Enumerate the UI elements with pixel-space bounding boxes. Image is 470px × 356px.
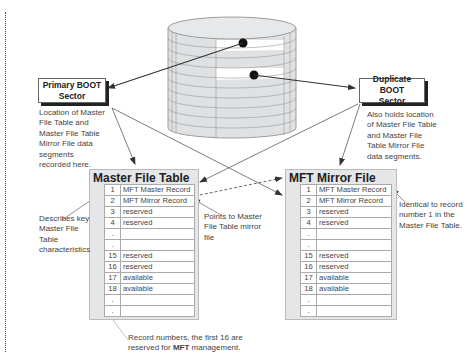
record-value: MFT Mirror Record xyxy=(317,196,392,207)
record-number: 17 xyxy=(105,273,121,284)
record-number: 4 xyxy=(301,218,317,229)
table-row: 17available xyxy=(301,273,392,284)
record-value: MFT Master Record xyxy=(121,185,195,196)
record-value: available xyxy=(121,284,195,295)
record-value: reserved xyxy=(317,262,392,273)
note-line: of Master File Table xyxy=(367,120,437,130)
duplicate-boot-label-line2: Sector xyxy=(360,96,424,107)
record-value: reserved xyxy=(121,207,195,218)
primary-boot-sector-box: Primary BOOT Sector xyxy=(38,78,106,103)
duplicate-boot-label-line1: Duplicate BOOT xyxy=(360,74,424,96)
primary-boot-label-line1: Primary BOOT xyxy=(43,80,102,91)
table-row: 3reserved xyxy=(301,207,392,218)
record-number: . xyxy=(105,306,121,317)
record-value: available xyxy=(317,284,392,295)
note-line: Table Mirror File xyxy=(367,141,437,151)
record-value: reserved xyxy=(121,262,195,273)
record-number: . xyxy=(105,229,121,240)
table-row: . xyxy=(301,306,392,317)
table-row: 18available xyxy=(105,284,195,295)
record-number: 1 xyxy=(105,185,121,196)
record-value xyxy=(317,240,392,251)
table-row: . xyxy=(105,240,195,251)
table-row: 2MFT Mirror Record xyxy=(301,196,392,207)
mft-mirror-file-title: MFT Mirror File xyxy=(289,171,376,185)
table-row: . xyxy=(301,229,392,240)
note-line: Identical to record xyxy=(399,200,463,210)
table-row: 2MFT Mirror Record xyxy=(105,196,195,207)
record-number: . xyxy=(105,295,121,306)
note-line: Describes key xyxy=(39,214,90,224)
duplicate-boot-sector-box: Duplicate BOOT Sector xyxy=(359,78,425,103)
diagram-graphics xyxy=(0,0,470,356)
record-number: 18 xyxy=(105,284,121,295)
record-number: 16 xyxy=(301,262,317,273)
primary-boot-label-line2: Sector xyxy=(43,91,102,102)
record-value xyxy=(121,306,195,317)
note-line: Points to Master xyxy=(204,212,262,222)
note-line: characteristics xyxy=(39,245,90,255)
record-number: . xyxy=(301,306,317,317)
record-number: 15 xyxy=(105,251,121,262)
record-value xyxy=(317,295,392,306)
note-line: Master File xyxy=(39,224,90,234)
record-value xyxy=(317,306,392,317)
table-row: 1MFT Master Record xyxy=(105,185,195,196)
table-row: . xyxy=(105,229,195,240)
record-value: MFT Master Record xyxy=(317,185,392,196)
note-line: number 1 in the xyxy=(399,210,463,220)
note-line: Location of Master xyxy=(39,108,105,118)
record-value xyxy=(121,229,195,240)
table-row: 16reserved xyxy=(105,262,195,273)
table-row: . xyxy=(105,306,195,317)
record-number: 4 xyxy=(105,218,121,229)
record-value xyxy=(317,229,392,240)
record-number: . xyxy=(105,240,121,251)
note-text: reserved for xyxy=(128,343,173,352)
table-row: . xyxy=(301,295,392,306)
note-line: Master File Table xyxy=(39,129,105,139)
note-line: File Table mirror xyxy=(204,222,262,232)
record-number: 18 xyxy=(301,284,317,295)
table-row: 1MFT Master Record xyxy=(301,185,392,196)
note-line: segments xyxy=(39,150,105,160)
table-row: . xyxy=(105,295,195,306)
record-numbers-annotation: Record numbers, the first 16 are reserve… xyxy=(128,333,243,354)
record-number: 15 xyxy=(301,251,317,262)
note-line: file xyxy=(204,233,262,243)
table-row: 15reserved xyxy=(105,251,195,262)
record-number: . xyxy=(301,295,317,306)
record-value: available xyxy=(317,273,392,284)
record-value: reserved xyxy=(121,218,195,229)
record-number: 1 xyxy=(301,185,317,196)
table-row: 18available xyxy=(301,284,392,295)
record-number: 17 xyxy=(301,273,317,284)
table-row: 4reserved xyxy=(301,218,392,229)
record-value: reserved xyxy=(317,218,392,229)
master-file-table-records: 1MFT Master Record 2MFT Mirror Record 3r… xyxy=(104,184,195,317)
note-line: File Table and xyxy=(39,118,105,128)
record-number: 2 xyxy=(301,196,317,207)
table-row: 3reserved xyxy=(105,207,195,218)
master-file-table-title: Master File Table xyxy=(93,171,189,185)
record-number: 2 xyxy=(105,196,121,207)
table-row: 16reserved xyxy=(301,262,392,273)
table-row: 15reserved xyxy=(301,251,392,262)
points-to-mirror-annotation: Points to Master File Table mirror file xyxy=(204,212,262,243)
note-line: Master File Table. xyxy=(399,221,463,231)
record-number: . xyxy=(301,240,317,251)
note-line: reserved for MFT management. xyxy=(128,343,243,353)
record-value xyxy=(121,295,195,306)
describes-key-annotation: Describes key Master File Table characte… xyxy=(39,214,90,256)
record-value: MFT Mirror Record xyxy=(121,196,195,207)
record-value: reserved xyxy=(121,251,195,262)
record-value: reserved xyxy=(317,207,392,218)
note-text: management. xyxy=(189,343,240,352)
primary-boot-note: Location of Master File Table and Master… xyxy=(39,108,105,170)
table-row: 17available xyxy=(105,273,195,284)
table-row: . xyxy=(301,240,392,251)
note-line: Record numbers, the first 16 are xyxy=(128,333,243,343)
note-line: data segments. xyxy=(367,152,437,162)
record-value xyxy=(121,240,195,251)
table-row: 4reserved xyxy=(105,218,195,229)
